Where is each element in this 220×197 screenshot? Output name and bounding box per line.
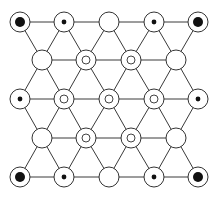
lattice-node-big-dot: [10, 12, 30, 32]
node-circle: [99, 167, 119, 187]
small-dot-icon: [152, 20, 157, 25]
open-ring-icon: [150, 95, 158, 103]
small-dot-icon: [152, 175, 157, 180]
open-ring-icon: [127, 134, 135, 142]
small-dot-icon: [62, 20, 67, 25]
small-dot-icon: [196, 97, 201, 102]
open-ring-icon: [82, 134, 90, 142]
node-circle: [99, 12, 119, 32]
lattice-node-empty: [99, 12, 119, 32]
node-circle: [166, 50, 186, 70]
lattice-node-ring: [54, 89, 74, 109]
large-dot-icon: [15, 172, 25, 182]
lattice-node-big-dot: [188, 12, 208, 32]
lattice-node-empty: [166, 128, 186, 148]
lattice-node-ring: [76, 128, 96, 148]
large-dot-icon: [15, 17, 25, 27]
open-ring-icon: [82, 56, 90, 64]
node-circle: [32, 128, 52, 148]
lattice-node-empty: [166, 50, 186, 70]
lattice-node-ring: [76, 50, 96, 70]
lattice-node-empty: [32, 128, 52, 148]
lattice-node-small-dot: [54, 167, 74, 187]
lattice-node-ring: [144, 89, 164, 109]
large-dot-icon: [193, 172, 203, 182]
lattice-node-ring: [121, 128, 141, 148]
node-circle: [32, 50, 52, 70]
lattice-node-ring: [121, 50, 141, 70]
lattice-node-small-dot: [54, 12, 74, 32]
node-circle: [166, 128, 186, 148]
lattice-node-big-dot: [188, 167, 208, 187]
lattice-node-ring: [99, 89, 119, 109]
lattice-node-small-dot: [144, 167, 164, 187]
large-dot-icon: [193, 17, 203, 27]
open-ring-icon: [105, 95, 113, 103]
small-dot-icon: [62, 175, 67, 180]
lattice-node-small-dot: [144, 12, 164, 32]
triangular-lattice-diagram: [0, 0, 220, 197]
lattice-node-empty: [32, 50, 52, 70]
open-ring-icon: [60, 95, 68, 103]
small-dot-icon: [18, 97, 23, 102]
lattice-node-small-dot: [10, 89, 30, 109]
lattice-node-empty: [99, 167, 119, 187]
lattice-node-big-dot: [10, 167, 30, 187]
open-ring-icon: [127, 56, 135, 64]
lattice-node-small-dot: [188, 89, 208, 109]
